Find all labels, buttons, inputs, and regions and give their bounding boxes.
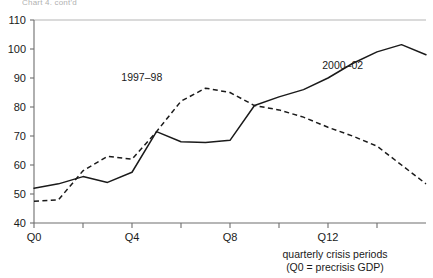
x-tick-label: Q0 <box>27 231 42 243</box>
x-tick-label: Q4 <box>125 231 140 243</box>
y-tick-label: 50 <box>14 188 26 200</box>
series-annotation-label: 2000–02 <box>322 59 363 71</box>
x-axis-caption-line1: quarterly crisis periods <box>282 248 387 260</box>
chart-container: Chart 4. cont'd 405060708090100110 Q0Q4Q… <box>0 0 433 278</box>
y-axis-tick-labels: 405060708090100110 <box>8 14 26 229</box>
y-tick-label: 60 <box>14 159 26 171</box>
series-line-1997-98 <box>34 88 426 201</box>
series-annotation-label: 1997–98 <box>121 71 162 83</box>
y-tick-label: 110 <box>8 14 26 26</box>
y-tick-label: 80 <box>14 101 26 113</box>
chart-svg: 405060708090100110 Q0Q4Q8Q12 1997–982000… <box>0 0 433 278</box>
y-tick-label: 90 <box>14 72 26 84</box>
x-axis-caption-line2: (Q0 = precrisis GDP) <box>286 261 384 273</box>
y-tick-label: 70 <box>14 130 26 142</box>
y-tick-label: 40 <box>14 217 26 229</box>
x-axis-ticks <box>34 223 377 228</box>
y-axis-ticks <box>30 20 34 223</box>
x-tick-label: Q8 <box>223 231 238 243</box>
series-line-2000-02 <box>34 45 426 189</box>
series-annotations: 1997–982000–02 <box>121 59 363 83</box>
x-tick-label: Q12 <box>318 231 339 243</box>
x-axis-tick-labels: Q0Q4Q8Q12 <box>27 231 339 243</box>
y-tick-label: 100 <box>8 43 26 55</box>
